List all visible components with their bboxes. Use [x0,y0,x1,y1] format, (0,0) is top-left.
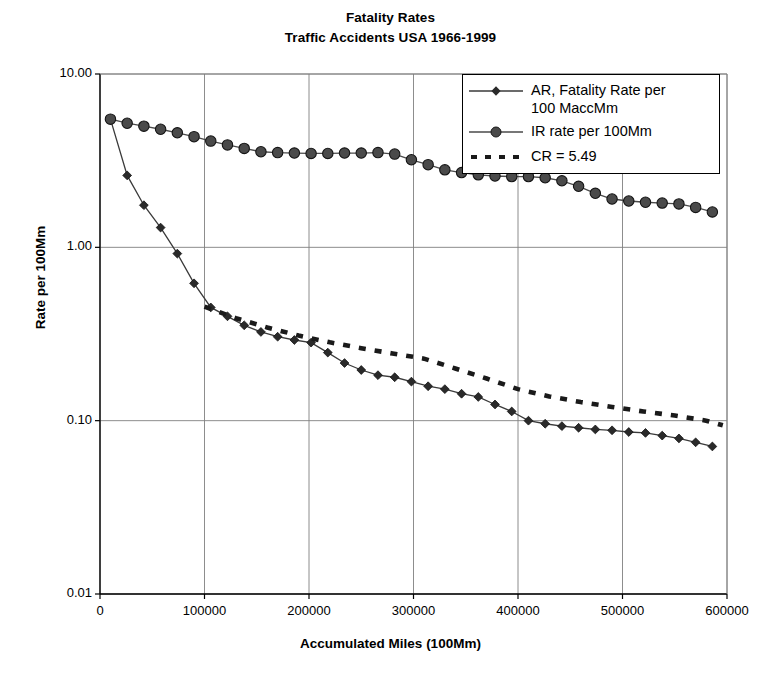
data-point-marker [189,131,199,141]
data-point-marker [557,176,567,186]
data-point-marker [172,128,182,138]
x-tick-label: 400000 [473,603,563,618]
series-line-2 [205,307,723,426]
data-point-marker [357,366,366,375]
legend-entry-cr: CR = 5.49 [463,148,721,166]
data-point-marker [640,197,650,207]
data-point-marker [707,207,717,217]
data-point-marker [139,121,149,131]
data-point-marker [540,173,550,183]
chart-legend: AR, Fatality Rate per 100 MaccMm IR rate… [462,74,720,174]
x-tick-label: 500000 [578,603,668,618]
data-point-marker [256,147,266,157]
data-point-marker [608,426,617,435]
data-point-marker [239,143,249,153]
line-diamond-key [463,82,529,100]
data-point-marker [323,348,332,357]
data-point-marker [557,422,566,431]
chart-subtitle: Traffic Accidents USA 1966-1999 [0,28,781,48]
x-tick-label: 100000 [160,603,250,618]
data-point-marker [240,321,249,330]
data-point-marker [591,425,600,434]
data-point-marker [440,165,450,175]
data-point-marker [272,147,282,157]
data-point-marker [641,429,650,438]
data-point-marker [624,196,634,206]
data-point-marker [155,124,165,134]
legend-label-cr: CR = 5.49 [529,148,597,166]
data-point-marker [407,377,416,386]
chart-title-block: Fatality Rates Traffic Accidents USA 196… [0,8,781,48]
data-point-marker [423,159,433,169]
data-point-marker [590,188,600,198]
data-point-marker [222,140,232,150]
data-point-marker [122,118,132,128]
dashed-line-key [463,148,529,166]
data-point-marker [173,249,182,258]
y-tick-label: 0.01 [0,585,92,600]
data-point-marker [406,155,416,165]
y-axis-label: Rate per 100Mm [33,178,48,378]
legend-label-ar-line1: AR, Fatality Rate per [531,82,666,98]
data-point-marker [323,148,333,158]
data-point-marker [674,199,684,209]
data-point-marker [440,385,449,394]
data-point-marker [339,148,349,158]
legend-entry-ar: AR, Fatality Rate per 100 MaccMm [463,82,721,117]
data-point-marker [524,416,533,425]
data-point-marker [190,279,199,288]
data-point-marker [457,389,466,398]
data-point-marker [289,148,299,158]
data-point-marker [273,332,282,341]
data-point-marker [389,149,399,159]
legend-entry-ir: IR rate per 100Mm [463,123,721,141]
data-point-marker [573,181,583,191]
x-tick-label: 300000 [369,603,459,618]
data-point-marker [657,198,667,208]
data-point-marker [691,438,700,447]
y-tick-label: 10.00 [0,65,92,80]
legend-label-ar: AR, Fatality Rate per 100 MaccMm [529,82,666,117]
data-point-marker [340,359,349,368]
x-tick-label: 200000 [264,603,354,618]
x-tick-label: 0 [55,603,145,618]
data-point-marker [206,136,216,146]
x-axis-label: Accumulated Miles (100Mm) [0,636,781,651]
data-point-marker [607,194,617,204]
data-point-marker [374,371,383,380]
y-tick-label: 0.10 [0,412,92,427]
data-point-marker [675,434,684,443]
line-circle-key [463,123,529,141]
x-tick-label: 600000 [682,603,772,618]
y-tick-label: 1.00 [0,238,92,253]
data-point-marker [491,400,500,409]
data-point-marker [123,171,132,180]
data-point-marker [658,431,667,440]
data-point-marker [507,407,516,416]
data-point-marker [257,328,266,337]
data-point-marker [690,202,700,212]
data-point-marker [574,423,583,432]
data-point-marker [474,393,483,402]
data-point-marker [624,428,633,437]
chart-title: Fatality Rates [0,8,781,28]
data-point-marker [105,114,115,124]
chart-figure: Fatality Rates Traffic Accidents USA 196… [0,0,781,673]
legend-label-ir: IR rate per 100Mm [529,123,652,141]
data-point-marker [306,148,316,158]
data-point-marker [356,148,366,158]
data-point-marker [373,147,383,157]
data-point-marker [390,373,399,382]
data-point-marker [708,442,717,451]
data-point-marker [424,382,433,391]
legend-label-ar-line2: 100 MaccMm [531,100,618,116]
